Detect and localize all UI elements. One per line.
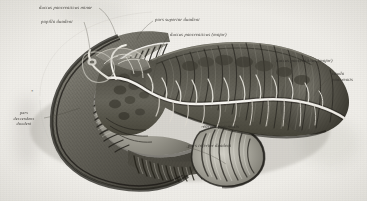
anatomical-plate: ductus pancreaticus minor papilla duoden… [0,0,367,201]
plate-vignette [0,0,367,201]
